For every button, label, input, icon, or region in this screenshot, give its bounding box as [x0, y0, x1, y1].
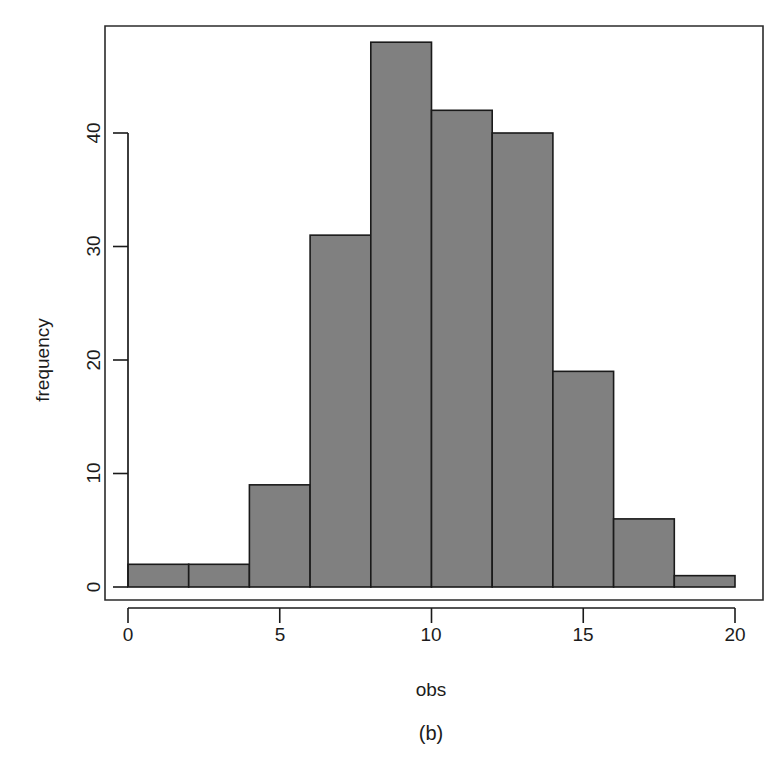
y-tick-label-0: 0 [83, 582, 104, 593]
y-tick-label-30: 30 [83, 235, 104, 256]
y-tick-label-10: 10 [83, 462, 104, 483]
histogram-bar [310, 235, 371, 587]
x-tick-label-15: 15 [572, 624, 593, 645]
histogram-plot: 0 10 20 30 40 frequency 0 5 10 15 20 obs… [0, 0, 781, 757]
x-tick-label-10: 10 [420, 624, 441, 645]
histogram-bar [492, 133, 553, 587]
histogram-figure: 0 10 20 30 40 frequency 0 5 10 15 20 obs… [0, 0, 781, 757]
x-tick-label-20: 20 [724, 624, 745, 645]
histogram-bar [371, 42, 432, 587]
y-tick-label-40: 40 [83, 122, 104, 143]
histogram-bar [249, 485, 310, 587]
y-axis-title: frequency [32, 318, 53, 402]
histogram-bar [674, 576, 735, 587]
histogram-bar [189, 564, 250, 587]
histogram-bar [553, 371, 614, 587]
y-tick-label-20: 20 [83, 349, 104, 370]
histogram-bar [128, 564, 189, 587]
x-tick-label-0: 0 [123, 624, 134, 645]
histogram-bar [432, 110, 493, 587]
panel-label: (b) [419, 722, 443, 744]
x-axis-title: obs [416, 679, 447, 700]
histogram-bar [614, 519, 675, 587]
x-tick-label-5: 5 [275, 624, 286, 645]
